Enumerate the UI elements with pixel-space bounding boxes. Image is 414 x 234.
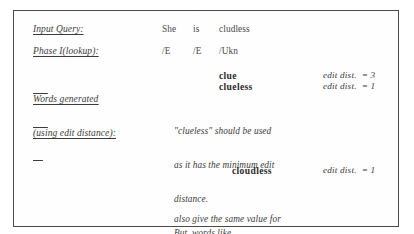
edit-distance-clueless: edit dist. = 1	[323, 81, 375, 92]
row-label-words-generated: Words generated (using edit distance):	[33, 72, 116, 162]
edit-distance-clue: edit dist. = 3	[323, 70, 375, 81]
input-token-is: is	[193, 24, 199, 35]
candidate-word-clue: clue	[219, 70, 237, 81]
row-label-words-generated-line-1: Words generated	[33, 94, 116, 105]
closing-note: also give the same value for edit distan…	[174, 191, 281, 234]
phase-one-tag-unknown: /Ukn	[219, 46, 238, 57]
row-label-words-generated-line-2: (using edit distance):	[33, 128, 116, 139]
row-label-phase-one-lookup: Phase I(lookup):	[33, 46, 99, 57]
explanation-line-1: "clueless" should be used	[174, 126, 274, 137]
input-token-cludless: cludless	[219, 24, 250, 35]
row-label-input-query: Input Query:	[33, 24, 84, 35]
phase-one-tag-is: /E	[193, 46, 201, 57]
closing-line-1: also give the same value for	[174, 214, 281, 225]
input-token-she: She	[162, 24, 176, 35]
candidate-word-clueless: clueless	[219, 81, 253, 92]
edit-distance-cloudless: edit dist. = 1	[323, 165, 375, 176]
phase-one-tag-she: /E	[162, 46, 170, 57]
figure-frame: Input Query: She is cludless Phase I(loo…	[13, 10, 399, 227]
alternative-word-cloudless: cloudless	[232, 165, 272, 176]
figure-canvas: Input Query: She is cludless Phase I(loo…	[14, 11, 398, 226]
